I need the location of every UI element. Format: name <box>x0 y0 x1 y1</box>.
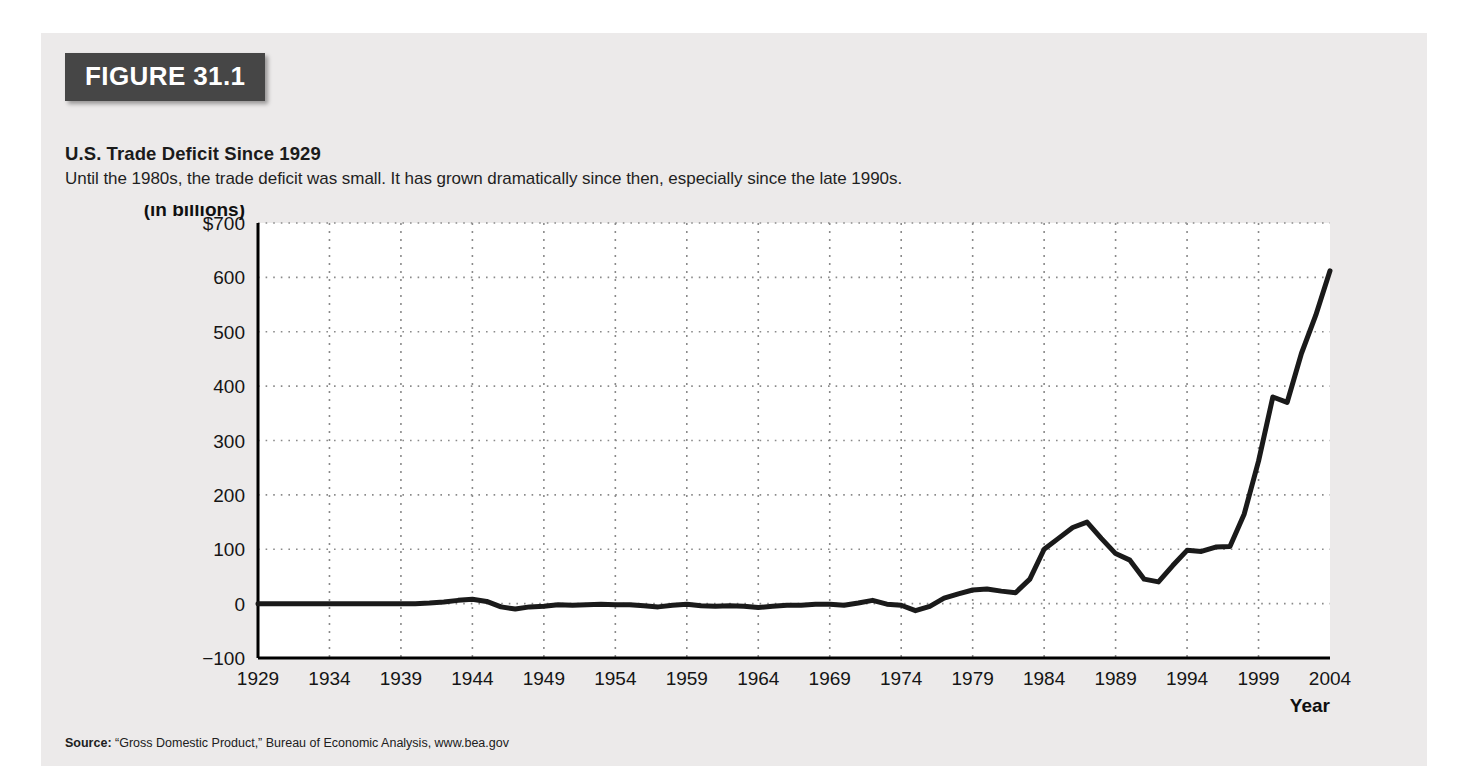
x-tick-label: 1979 <box>952 668 994 689</box>
x-tick-label: 1944 <box>451 668 494 689</box>
x-tick-label: 1989 <box>1094 668 1136 689</box>
figure-number-badge: FIGURE 31.1 <box>65 53 265 101</box>
y-tick-label: 400 <box>213 376 245 397</box>
y-tick-label: 500 <box>213 322 245 343</box>
y-tick-label: 0 <box>234 594 245 615</box>
x-tick-label: 1934 <box>308 668 351 689</box>
figure-subtitle: Until the 1980s, the trade deficit was s… <box>65 169 902 189</box>
x-tick-label: 1939 <box>380 668 422 689</box>
source-label: Source: <box>65 736 112 750</box>
x-tick-label: 1949 <box>523 668 565 689</box>
trade-deficit-line-chart: $7006005004003002001000−1001929193419391… <box>41 205 1427 725</box>
x-tick-label: 1984 <box>1023 668 1066 689</box>
y-tick-label: 200 <box>213 485 245 506</box>
y-axis-title-line2: (in billions) <box>144 205 245 220</box>
x-tick-label: 1964 <box>737 668 780 689</box>
figure-card: FIGURE 31.1 U.S. Trade Deficit Since 192… <box>41 33 1427 766</box>
y-tick-label: 600 <box>213 267 245 288</box>
figure-title: U.S. Trade Deficit Since 1929 <box>65 143 321 165</box>
x-tick-label: 1959 <box>666 668 708 689</box>
source-citation: “Gross Domestic Product,” Bureau of Econ… <box>115 736 509 750</box>
x-tick-label: 1929 <box>237 668 279 689</box>
x-tick-label: 1969 <box>809 668 851 689</box>
y-tick-label: 300 <box>213 431 245 452</box>
y-tick-label: −100 <box>202 648 245 669</box>
source-note: Source: “Gross Domestic Product,” Bureau… <box>65 736 509 750</box>
x-tick-label: 1994 <box>1166 668 1209 689</box>
chart-plot-area: $7006005004003002001000−1001929193419391… <box>41 205 1427 725</box>
x-axis-title: Year <box>1290 695 1331 716</box>
x-tick-label: 1974 <box>880 668 923 689</box>
x-tick-label: 1954 <box>594 668 637 689</box>
x-tick-label: 1999 <box>1237 668 1279 689</box>
y-tick-label: 100 <box>213 539 245 560</box>
x-tick-label: 2004 <box>1309 668 1352 689</box>
